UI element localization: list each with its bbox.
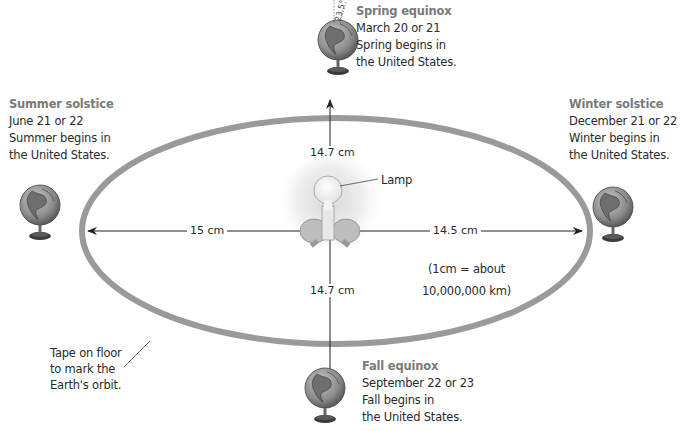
globe-winter bbox=[593, 187, 633, 242]
summer-title: Summer solstice bbox=[9, 96, 114, 113]
label-fall: Fall equinox September 22 or 23 Fall beg… bbox=[362, 358, 474, 426]
label-winter: Winter solstice December 21 or 22 Winter… bbox=[569, 96, 677, 164]
lamp-label: Lamp bbox=[381, 172, 412, 189]
label-spring: Spring equinox March 20 or 21 Spring beg… bbox=[356, 3, 456, 71]
spring-line: Spring begins in bbox=[356, 37, 456, 54]
orbit-label-line: Tape on floor bbox=[50, 345, 122, 361]
orbit-label-line: Earth's orbit. bbox=[50, 377, 122, 393]
winter-line: December 21 or 22 bbox=[569, 113, 677, 130]
fall-line: September 22 or 23 bbox=[362, 375, 474, 392]
scale-note-line: (1cm = about bbox=[422, 258, 511, 280]
spring-line: March 20 or 21 bbox=[356, 20, 456, 37]
globe-spring bbox=[318, 20, 358, 75]
winter-line: the United States. bbox=[569, 147, 677, 164]
fall-line: Fall begins in bbox=[362, 392, 474, 409]
scale-note-line: 10,000,000 km) bbox=[422, 280, 511, 302]
measure-right: 14.5 cm bbox=[430, 224, 481, 237]
winter-line: Winter begins in bbox=[569, 130, 677, 147]
winter-title: Winter solstice bbox=[569, 96, 677, 113]
fall-line: the United States. bbox=[362, 409, 474, 426]
globe-summer bbox=[20, 185, 60, 240]
spring-line: the United States. bbox=[356, 54, 456, 71]
measure-left: 15 cm bbox=[187, 224, 227, 237]
measure-top: 14.7 cm bbox=[307, 146, 358, 159]
summer-line: the United States. bbox=[9, 147, 114, 164]
summer-line: Summer begins in bbox=[9, 130, 114, 147]
label-summer: Summer solstice June 21 or 22 Summer beg… bbox=[9, 96, 114, 164]
globe-fall bbox=[305, 368, 345, 423]
spring-title: Spring equinox bbox=[356, 3, 456, 20]
tilt-label: 23.5° bbox=[333, 0, 347, 23]
summer-line: June 21 or 22 bbox=[9, 113, 114, 130]
fall-title: Fall equinox bbox=[362, 358, 474, 375]
measure-bottom: 14.7 cm bbox=[307, 284, 358, 297]
orbit-label: Tape on floor to mark the Earth's orbit. bbox=[50, 345, 122, 393]
orbit-label-line: to mark the bbox=[50, 361, 122, 377]
scale-note: (1cm = about 10,000,000 km) bbox=[422, 258, 511, 302]
